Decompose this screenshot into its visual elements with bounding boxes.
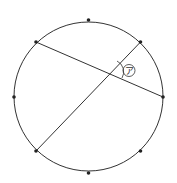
point-top [87,18,91,22]
circle-diagram: ア [0,0,177,183]
point-bottom-left [34,149,38,153]
point-bottom [87,171,91,175]
point-right [161,95,165,99]
chord-bottomleft-topright [36,42,141,151]
point-left [12,95,16,99]
point-top-right [139,40,143,44]
chord-topleft-right [36,42,163,97]
point-top-left [34,40,38,44]
point-bottom-right [139,149,143,153]
angle-label: ア [125,66,134,76]
